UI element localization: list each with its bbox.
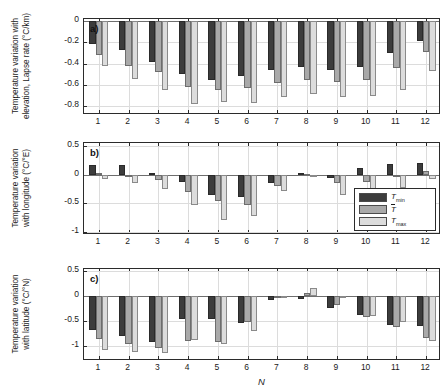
panel-c-y-axis-title-line1: Temperature variation bbox=[11, 274, 20, 353]
panel-a-y-axis-title-line1: Temperature variation with bbox=[11, 18, 20, 114]
panel-c-tag: c) bbox=[90, 273, 98, 284]
bar-t_max-9 bbox=[340, 296, 346, 298]
bar-group bbox=[119, 143, 138, 233]
bar-t_max-11 bbox=[400, 21, 406, 90]
y-tick-label: -0.8 bbox=[45, 99, 79, 109]
bar-group bbox=[208, 19, 227, 113]
x-tick-label: 7 bbox=[264, 362, 288, 372]
bar-t_min-11 bbox=[387, 164, 393, 174]
bar-group bbox=[387, 269, 406, 359]
bar-group bbox=[149, 143, 168, 233]
legend-swatch bbox=[359, 217, 387, 226]
bar-group bbox=[327, 19, 346, 113]
x-tick-label: 12 bbox=[413, 362, 437, 372]
x-tick-label: 7 bbox=[264, 116, 288, 126]
panel-c-plot-area bbox=[83, 268, 440, 360]
legend-swatch bbox=[359, 205, 387, 214]
bar-group bbox=[417, 269, 436, 359]
panel-a-tag: a) bbox=[90, 23, 98, 34]
panel-a-y-axis-title-line2: elevation, Lapse rate (°C/km) bbox=[22, 13, 31, 119]
x-tick-label: 10 bbox=[354, 236, 378, 246]
y-tick-label: -0.5 bbox=[45, 314, 79, 324]
x-tick-label: 10 bbox=[354, 116, 378, 126]
y-tick-label: 0 bbox=[45, 168, 79, 178]
bar-group bbox=[119, 19, 138, 113]
bar-group bbox=[179, 269, 198, 359]
x-tick-label: 5 bbox=[205, 236, 229, 246]
panel-b-y-axis-title-line1: Temperature variation bbox=[11, 148, 20, 227]
bar-t_max-3 bbox=[162, 21, 168, 90]
bar-t_max-10 bbox=[370, 21, 376, 96]
panel-b-y-axis-title-line2: with longitude (°C/°E) bbox=[22, 149, 31, 227]
x-tick-label: 2 bbox=[116, 362, 140, 372]
bar-t_max-1 bbox=[102, 296, 108, 349]
y-tick-label: 0.5 bbox=[45, 139, 79, 149]
bar-t_min-2 bbox=[119, 165, 125, 174]
panel-c-y-axis-title: Temperature variation with latitude (°C/… bbox=[10, 251, 32, 377]
x-tick-label: 8 bbox=[294, 116, 318, 126]
bar-group bbox=[387, 19, 406, 113]
bar-group bbox=[417, 19, 436, 113]
bar-t_max-5 bbox=[221, 21, 227, 102]
x-tick-label: 8 bbox=[294, 236, 318, 246]
legend-swatch bbox=[359, 193, 387, 202]
bar-group bbox=[268, 19, 287, 113]
bar-group bbox=[149, 19, 168, 113]
figure-root: a) Temperature variation with elevation,… bbox=[0, 0, 448, 386]
bar-group bbox=[298, 19, 317, 113]
bar-t_max-2 bbox=[132, 21, 138, 79]
bar-t_max-3 bbox=[162, 175, 168, 189]
bar-t_min-10 bbox=[357, 168, 363, 175]
legend-item[interactable]: T bbox=[359, 204, 431, 215]
x-tick-label: 4 bbox=[175, 362, 199, 372]
y-tick bbox=[84, 42, 87, 43]
bar-group bbox=[298, 143, 317, 233]
y-tick-label: -1 bbox=[45, 225, 79, 235]
x-tick-label: 12 bbox=[413, 236, 437, 246]
x-tick-label: 9 bbox=[324, 236, 348, 246]
x-tick-label: 4 bbox=[175, 116, 199, 126]
legend-item[interactable]: Tmin bbox=[359, 192, 431, 203]
y-tick bbox=[84, 146, 87, 147]
y-tick bbox=[84, 346, 87, 347]
panel-c-y-axis-title-line2: with latitude (°C/°N) bbox=[22, 278, 31, 350]
legend-item[interactable]: Tmax bbox=[359, 216, 431, 227]
x-tick-label: 2 bbox=[116, 116, 140, 126]
y-tick bbox=[84, 271, 87, 272]
bar-t_max-12 bbox=[429, 175, 435, 180]
bar-t_max-8 bbox=[310, 21, 316, 94]
bar-group bbox=[327, 143, 346, 233]
y-tick-label: -0.6 bbox=[45, 78, 79, 88]
bar-t_max-8 bbox=[310, 175, 316, 177]
bar-t_max-1 bbox=[102, 21, 108, 66]
bar-group bbox=[357, 269, 376, 359]
x-tick-label: 9 bbox=[324, 362, 348, 372]
x-tick-label: 9 bbox=[324, 116, 348, 126]
bar-group bbox=[327, 269, 346, 359]
y-tick-label: -0.5 bbox=[45, 196, 79, 206]
bar-group bbox=[179, 143, 198, 233]
x-tick-label: 6 bbox=[235, 116, 259, 126]
panel-b-y-axis-title: Temperature variation with longitude (°C… bbox=[10, 125, 32, 251]
x-tick-label: 11 bbox=[383, 236, 407, 246]
bar-t_max-2 bbox=[132, 296, 138, 352]
bar-t_max-5 bbox=[221, 175, 227, 220]
bar-group bbox=[238, 269, 257, 359]
bar-t_max-4 bbox=[191, 296, 197, 340]
bar-t_max-4 bbox=[191, 175, 197, 205]
x-tick-label: 1 bbox=[86, 116, 110, 126]
panel-a-y-axis-title: Temperature variation with elevation, La… bbox=[10, 1, 32, 131]
legend-label: T bbox=[391, 205, 396, 214]
bar-group bbox=[208, 269, 227, 359]
x-tick-label: 1 bbox=[86, 236, 110, 246]
bar-group bbox=[208, 143, 227, 233]
bar-t_max-7 bbox=[281, 296, 287, 298]
bar-group bbox=[179, 19, 198, 113]
x-tick-label: 10 bbox=[354, 362, 378, 372]
bar-t_max-4 bbox=[191, 21, 197, 104]
x-tick-label: 5 bbox=[205, 362, 229, 372]
y-tick-label: -0.4 bbox=[45, 57, 79, 67]
panel-b-tag: b) bbox=[90, 147, 99, 158]
bar-t_max-2 bbox=[132, 175, 138, 183]
y-tick-label: -1 bbox=[45, 339, 79, 349]
